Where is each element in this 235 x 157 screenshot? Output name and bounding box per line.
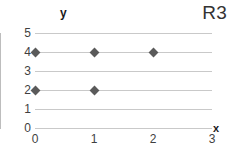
- chart-corner-label: R3: [202, 2, 227, 24]
- x-axis-tick-label: 1: [84, 133, 104, 146]
- data-point-marker: [148, 47, 158, 57]
- data-point-marker: [30, 47, 40, 57]
- gridline: [35, 128, 212, 129]
- gridline: [35, 90, 212, 91]
- y-axis-title: y: [60, 6, 67, 20]
- data-point-marker: [30, 85, 40, 95]
- gridline: [35, 33, 212, 34]
- y-axis-tick-label: 2: [15, 84, 31, 96]
- chart-container: R3 y x 012345 0123: [0, 0, 235, 157]
- data-point-marker: [89, 47, 99, 57]
- data-point-marker: [89, 85, 99, 95]
- gridline: [35, 109, 212, 110]
- x-axis-tick-label: 0: [25, 133, 45, 146]
- gridline: [35, 52, 212, 53]
- plot-area: [35, 33, 212, 128]
- y-axis-line: [0, 33, 1, 129]
- x-axis-tick-label: 2: [143, 133, 163, 146]
- y-axis-tick-label: 5: [15, 27, 31, 39]
- gridline: [35, 71, 212, 72]
- y-axis-tick-label: 1: [15, 103, 31, 115]
- y-axis-tick-label: 4: [15, 46, 31, 58]
- x-axis-tick-label: 3: [202, 133, 222, 146]
- y-axis-tick-label: 3: [15, 65, 31, 77]
